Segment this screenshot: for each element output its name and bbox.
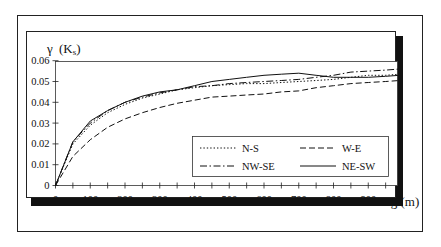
legend: N-SW-ENW-SENE-SW — [193, 137, 389, 177]
legend-label: N-S — [242, 143, 259, 154]
y-axis-title: γ (Ks) — [46, 41, 81, 57]
y-tick-label: 0.05 — [31, 76, 49, 87]
x-tick-label: 100 — [82, 194, 98, 205]
legend-label: NE-SW — [342, 161, 375, 172]
x-tick-label: 0 — [53, 194, 58, 205]
x-tick-label: 900 — [360, 194, 376, 205]
x-tick-label: 300 — [152, 194, 168, 205]
x-axis-title: Lag (m) — [377, 194, 419, 209]
x-tick-label: 700 — [291, 194, 307, 205]
legend-label: W-E — [342, 143, 361, 154]
variogram-chart: 00.010.020.030.040.050.06 01002003004005… — [0, 0, 441, 247]
x-tick-label: 200 — [117, 194, 133, 205]
y-tick-label: 0 — [44, 180, 49, 191]
y-tick-label: 0.04 — [31, 97, 50, 108]
y-tick-label: 0.06 — [31, 55, 49, 66]
legend-label: NW-SE — [242, 161, 275, 172]
x-tick-label: 800 — [326, 194, 342, 205]
y-tick-label: 0.03 — [31, 118, 49, 129]
x-tick-label: 600 — [256, 194, 272, 205]
y-tick-label: 0.02 — [31, 138, 49, 149]
x-tick-label: 400 — [187, 194, 203, 205]
x-tick-label: 500 — [221, 194, 237, 205]
y-tick-label: 0.01 — [31, 159, 49, 170]
